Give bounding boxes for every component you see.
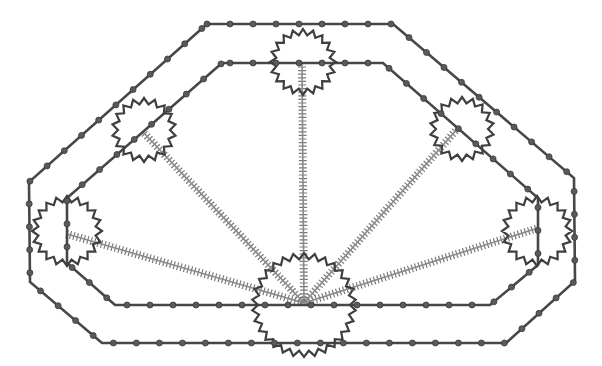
track-node-dot [509,284,515,290]
track-node-dot [225,340,231,346]
track-node-dot [511,124,517,130]
track-node-dot [193,302,199,308]
track-node-dot [319,60,325,66]
track-node-dot [536,310,542,316]
spokes-layer [66,63,538,306]
track-node-dot [147,71,153,77]
track-node-dot [400,302,406,308]
track-node-dot [262,302,268,308]
track-node-dot [170,302,176,308]
track-node-dot [96,117,102,123]
track-node-dot [553,295,559,301]
track-node-dot [529,139,535,145]
track-node-dot [182,41,188,47]
track-node-dot [546,154,552,160]
track-node-dot [423,302,429,308]
track-node-dot [519,326,525,332]
track-node-dot [535,205,541,211]
track-node-dot [491,299,497,305]
track-node-dot [250,60,256,66]
track-node-dot [73,318,79,324]
track-node-dot [79,132,85,138]
track-node-dot [55,303,61,309]
track-node-dot [340,340,346,346]
track-node-dot [227,60,233,66]
track-node-dot [501,340,507,346]
track-node-dot [248,340,254,346]
track-node-dot [273,21,279,27]
track-node-dot [124,302,130,308]
track-node-dot [227,21,233,27]
track-node-dot [294,340,300,346]
track-node-dot [179,340,185,346]
track-node-dot [386,340,392,346]
track-node-dot [296,21,302,27]
track-node-dot [455,340,461,346]
track-node-dot [130,87,136,93]
track-node-dot [199,26,205,32]
track-node-dot [64,221,70,227]
track-node-dot [342,21,348,27]
track-node-dot [216,302,222,308]
track-node-dot [110,340,116,346]
track-node-dot [156,340,162,346]
track-node-dot [421,96,427,102]
track-node-dot [271,340,277,346]
track-node-dot [114,152,120,158]
track-node-dot [572,257,578,263]
track-node-dot [27,178,33,184]
track-node-dot [27,270,33,276]
track-node-dot [342,60,348,66]
track-node-dot [183,91,189,97]
track-node-dot [296,60,302,66]
track-node-dot [90,333,96,339]
track-node-dot [218,61,224,67]
track-node-dot [204,21,210,27]
track-node-dot [377,302,383,308]
track-node-dot [131,136,137,142]
track-node-dot [79,182,85,188]
track-node-dot [570,280,576,286]
track-node-dot [386,65,392,71]
track-node-dot [409,340,415,346]
track-node-dot [490,156,496,162]
track-node-dot [571,188,577,194]
track-node-dot [571,211,577,217]
track-node-dot [147,302,153,308]
track-node-dot [507,171,513,177]
track-node-dot [535,251,541,257]
track-node-dot [239,302,245,308]
track-node-dot [26,224,32,230]
track-node-dot [26,201,32,207]
track-node-dot [273,60,279,66]
track-node-dot [149,121,155,127]
track-node-dot [133,340,139,346]
track-node-dot [476,94,482,100]
track-node-dot [64,198,70,204]
track-node-dot [61,148,67,154]
track-node-dot [69,265,75,271]
track-node-dot [363,340,369,346]
track-node-dot [165,56,171,62]
track-node-dot [97,167,103,173]
track-node-dot [27,247,33,253]
spoke-rail [304,228,538,303]
track-node-dot [469,302,475,308]
track-node-dot [64,244,70,250]
track-node-dot [319,21,325,27]
track-node-dot [86,280,92,286]
track-node-dot [406,35,412,41]
track-node-dot [388,21,394,27]
track-node-dot [331,302,337,308]
track-node-dot [365,60,371,66]
track-node-dot [441,64,447,70]
track-node-dot [166,106,172,112]
track-node-dot [564,169,570,175]
track-node-dot [478,340,484,346]
track-node-dot [473,141,479,147]
track-node-dot [354,302,360,308]
track-diagram [0,0,602,366]
track-node-dot [535,228,541,234]
track-node-dot [285,302,291,308]
track-node-dot [446,302,452,308]
